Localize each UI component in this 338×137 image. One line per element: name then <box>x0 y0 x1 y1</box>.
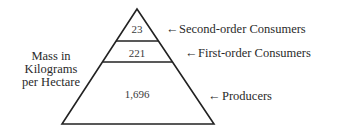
arrow-icon: ← <box>185 46 198 60</box>
label-producers: Producers <box>222 89 272 103</box>
level-value-second-order: 23 <box>132 23 144 35</box>
arrow-icon: ← <box>208 89 221 103</box>
axis-label-line-1: Mass in <box>31 49 71 63</box>
level-value-first-order: 221 <box>129 47 146 59</box>
biomass-pyramid: 23 221 1,696 ← Second-order Consumers ← … <box>0 0 338 137</box>
axis-label-line-2: Kilograms <box>25 62 78 76</box>
arrow-icon: ← <box>166 22 179 36</box>
label-second-order-consumers: Second-order Consumers <box>179 22 306 36</box>
label-first-order-consumers: First-order Consumers <box>198 46 311 60</box>
axis-label-line-3: per Hectare <box>22 75 80 89</box>
level-value-producers: 1,696 <box>125 88 150 100</box>
